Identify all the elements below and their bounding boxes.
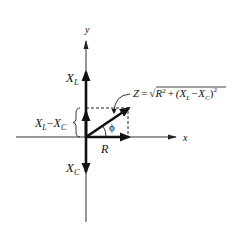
impedance-vector [86, 108, 129, 137]
difference-brace [73, 108, 80, 137]
inductive-reactance-label: XL [65, 70, 79, 87]
capacitive-reactance-label: XC [65, 160, 80, 177]
x-axis-label: x [182, 132, 188, 143]
phase-angle-arc [103, 126, 106, 137]
y-axis-label: y [84, 24, 90, 35]
difference-label: XL−XC [34, 116, 67, 132]
phase-angle-label: ϕ [109, 121, 115, 133]
impedance-formula: Z=√R2+(XL−XC)2 [133, 86, 217, 102]
impedance-diagram: y x XL XL−XC XC R ϕ Z=√R2+(XL−XC)2 [0, 0, 246, 230]
resistance-label: R [100, 142, 109, 156]
